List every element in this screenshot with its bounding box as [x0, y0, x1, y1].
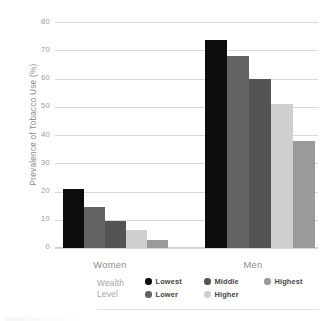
y-tick-80: 80 — [22, 18, 50, 26]
y-tick-0: 0 — [22, 243, 50, 251]
bar-men-highest — [293, 141, 315, 248]
group-label-women: Women — [60, 259, 160, 270]
legend-swatch-lowest-icon — [145, 278, 152, 285]
bar-women-lowest — [63, 189, 84, 248]
y-tick-50: 50 — [22, 102, 50, 110]
legend-label-middle: Middle — [215, 277, 239, 286]
bar-men-higher — [271, 104, 293, 248]
legend-label-higher: Higher — [215, 290, 239, 299]
plot-area — [55, 22, 318, 248]
bar-men-lower — [227, 56, 249, 248]
y-tick-40: 40 — [22, 131, 50, 139]
page-edge-artifact — [6, 317, 86, 321]
legend-swatch-lower-icon — [145, 291, 152, 298]
bar-women-higher — [126, 230, 147, 248]
tobacco-use-bar-chart: Prevalence of Tobacco Use (%) 80 70 60 5… — [0, 0, 329, 321]
legend-item-lower[interactable]: Lower — [145, 290, 178, 299]
legend: Wealth Level LowestLowerMiddleHigherHigh… — [97, 277, 319, 307]
y-tick-20: 20 — [22, 187, 50, 195]
bar-women-lower — [84, 207, 105, 248]
bar-men-lowest — [205, 40, 227, 248]
legend-label-highest: Highest — [275, 277, 303, 286]
legend-title: Wealth Level — [97, 278, 139, 299]
legend-swatch-middle-icon — [204, 278, 211, 285]
bar-group-men — [205, 22, 315, 248]
legend-label-lower: Lower — [156, 290, 179, 299]
legend-swatch-higher-icon — [204, 291, 211, 298]
legend-swatch-highest-icon — [264, 278, 271, 285]
bar-women-highest — [147, 240, 168, 248]
y-axis-tick-labels: 80 70 60 50 40 30 20 10 0 — [22, 22, 50, 248]
y-tick-60: 60 — [22, 74, 50, 82]
legend-label-lowest: Lowest — [156, 277, 182, 286]
legend-item-highest[interactable]: Highest — [264, 277, 303, 286]
legend-item-middle[interactable]: Middle — [204, 277, 239, 286]
y-tick-10: 10 — [22, 215, 50, 223]
legend-title-line1: Wealth — [97, 278, 124, 288]
bar-men-middle — [249, 79, 271, 249]
legend-bottom-rule — [97, 309, 319, 310]
y-tick-30: 30 — [22, 159, 50, 167]
legend-item-lowest[interactable]: Lowest — [145, 277, 182, 286]
group-label-men: Men — [203, 259, 303, 270]
y-tick-70: 70 — [22, 46, 50, 54]
legend-title-line2: Level — [97, 289, 118, 299]
bar-women-middle — [105, 221, 126, 248]
gridline-0 — [55, 248, 318, 249]
legend-item-higher[interactable]: Higher — [204, 290, 239, 299]
bar-group-women — [63, 22, 168, 248]
